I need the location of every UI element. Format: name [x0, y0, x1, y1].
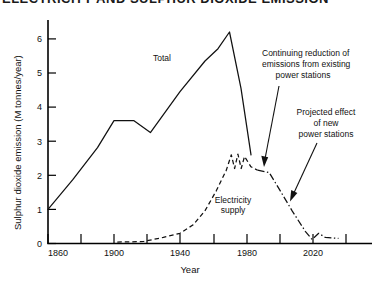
annotation-existing-arrowhead	[261, 156, 268, 167]
series-projection-line	[258, 170, 339, 239]
y-tick-marks	[48, 39, 56, 244]
annotation-projected-line3: power stations	[299, 129, 354, 139]
annotation-existing-leader	[265, 86, 280, 162]
y-tick-label-5: 5	[37, 68, 42, 78]
annotation-existing-line3: power stations	[276, 70, 331, 80]
annotation-existing-line1: Continuing reduction of	[262, 48, 350, 58]
x-tick-marks	[48, 234, 346, 244]
x-tick-label-1980: 1980	[237, 248, 257, 258]
x-axis-title: Year	[180, 264, 199, 275]
y-tick-label-3: 3	[37, 137, 42, 147]
chart-canvas: 0 1 2 3 4 5 6 Sulphur dioxide emission (…	[0, 0, 377, 283]
y-tick-label-6: 6	[37, 34, 42, 44]
y-tick-label-2: 2	[37, 171, 42, 181]
y-tick-labels: 0 1 2 3 4 5 6	[37, 34, 42, 249]
x-tick-label-1940: 1940	[170, 248, 190, 258]
annotation-projected-leader	[293, 143, 318, 196]
annotation-projected-line2: of new	[313, 118, 339, 128]
series-label-electricity-line1: Electricity	[215, 195, 252, 205]
annotation-projected-arrowhead	[290, 190, 297, 201]
series-label-total: Total	[153, 53, 171, 63]
x-tick-label-1900: 1900	[104, 248, 124, 258]
chart-figure: ELECTRICITY AND SULPHUR DIOXIDE EMISSION…	[0, 0, 377, 283]
x-tick-label-1860: 1860	[48, 248, 68, 258]
annotation-projected-line1: Projected effect	[297, 107, 357, 117]
series-label-electricity: Electricity supply	[215, 195, 252, 215]
y-tick-label-0: 0	[37, 239, 42, 249]
annotation-existing-line2: emissions from existing	[262, 59, 351, 69]
y-axis-title: Sulphur dioxide emission (M tonnes/year)	[12, 55, 23, 230]
x-tick-labels: 1860 1900 1940 1980 2020	[48, 248, 323, 258]
y-tick-label-1: 1	[37, 205, 42, 215]
x-tick-label-2020: 2020	[303, 248, 323, 258]
y-tick-label-4: 4	[37, 102, 42, 112]
series-label-electricity-line2: supply	[221, 205, 246, 215]
annotation-projected-effect: Projected effect of new power stations	[290, 107, 356, 202]
